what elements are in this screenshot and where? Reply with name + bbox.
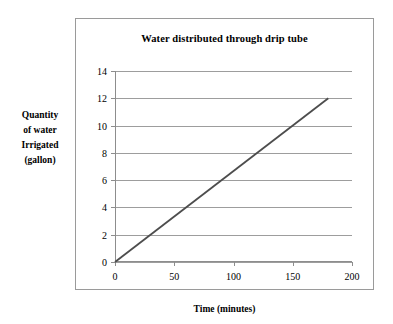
y-axis-tick-label: 8 <box>102 147 107 158</box>
x-axis-tick <box>352 262 353 266</box>
y-axis-title: Quantity of water Irrigated (gallon) <box>8 108 72 168</box>
x-axis-tick-label: 100 <box>226 271 241 282</box>
y-axis-tick-label: 10 <box>97 120 107 131</box>
plot-area: 02468101214 050100150200 <box>115 71 352 262</box>
x-axis-tick <box>174 262 175 266</box>
x-axis-tick-label: 200 <box>345 271 360 282</box>
y-axis-title-line-3: Irrigated <box>8 138 72 153</box>
x-axis-tick-label: 0 <box>113 271 118 282</box>
y-axis-title-line-2: of water <box>8 123 72 138</box>
chart-title: Water distributed through drip tube <box>76 33 373 44</box>
x-axis-title: Time (minutes) <box>75 304 374 314</box>
x-axis-tick <box>293 262 294 266</box>
x-axis-tick-label: 150 <box>285 271 300 282</box>
y-axis-tick-label: 6 <box>102 175 107 186</box>
y-axis-tick-label: 2 <box>102 229 107 240</box>
data-series-layer <box>115 71 352 262</box>
x-axis-tick <box>234 262 235 266</box>
y-axis-tick-label: 0 <box>102 257 107 268</box>
x-axis-tick-label: 50 <box>169 271 179 282</box>
y-axis-title-line-4: (gallon) <box>8 153 72 168</box>
y-axis-tick-label: 4 <box>102 202 107 213</box>
data-series-line <box>115 98 328 262</box>
y-axis-title-line-1: Quantity <box>8 108 72 123</box>
y-axis-tick-label: 14 <box>97 66 107 77</box>
y-axis-tick-label: 12 <box>97 93 107 104</box>
